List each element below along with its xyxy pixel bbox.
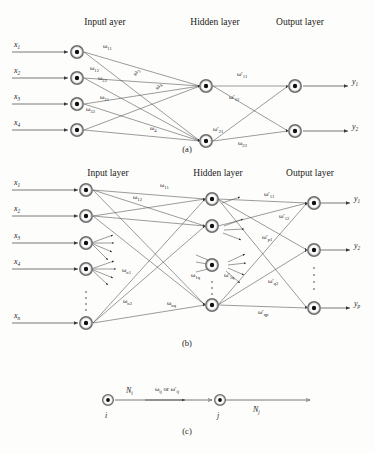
panel-b-input-node [80,210,92,222]
panel-b-output-node [308,244,320,256]
panel-b-hidden-node [206,259,218,271]
panel-c-caption: (c) [182,426,192,436]
panel-a-hidden-node [200,80,212,92]
panel-a-caption: (a) [182,144,192,154]
panel-b-input-layer-title: Input layer [87,168,129,178]
panel-a-input-node [71,98,83,110]
figure-canvas: Inputl ayer Hidden layer Output layer x1… [0,0,375,454]
panel-a-output-node [289,125,301,137]
panel-a-input-node [71,124,83,136]
panel-a-input-layer-title: Inputl ayer [84,17,126,27]
panel-a-input-node [71,72,83,84]
panel-b-hidden-node [206,220,218,232]
panel-c-node-i-label: i [105,411,107,420]
panel-b-hidden-layer-title: Hidden layer [193,168,243,178]
panel-a-input-node [71,46,83,58]
figure-background [0,0,375,454]
panel-c-node-i [103,395,114,406]
panel-b-input-node [80,317,92,329]
panel-a-output-layer-title: Output layer [276,17,325,27]
panel-b-output-node [308,197,320,209]
panel-b-input-node [80,184,92,196]
panel-c-node-j [215,395,226,406]
panel-a-hidden-node [200,135,212,147]
neural-network-figure: Inputl ayer Hidden layer Output layer x1… [0,0,375,454]
panel-b-hidden-node [206,193,218,205]
panel-b-hidden-node [206,299,218,311]
panel-a-output-node [289,80,301,92]
panel-b-output-layer-title: Output layer [286,168,335,178]
panel-b-input-node [80,263,92,275]
panel-a-hidden-layer-title: Hidden layer [190,17,240,27]
panel-b-output-node [308,302,320,314]
panel-b-input-node [80,237,92,249]
panel-b-caption: (b) [182,338,192,348]
